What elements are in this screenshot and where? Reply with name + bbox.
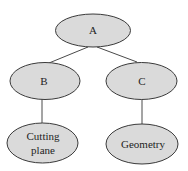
node-c-label: C: [138, 75, 145, 87]
node-cutting-plane-label-line1: Cutting: [26, 130, 60, 142]
edge-a-c: [97, 47, 137, 62]
node-c: C: [106, 63, 177, 100]
node-a-label: A: [89, 24, 97, 36]
node-cutting-plane-label-line2: plane: [31, 144, 55, 156]
node-cutting-plane: Cutting plane: [7, 123, 78, 163]
node-b: B: [10, 63, 80, 100]
tree-diagram: A B C Cutting plane Geometry: [0, 0, 188, 171]
node-b-label: B: [40, 75, 47, 87]
node-a: A: [56, 14, 131, 47]
node-geometry: Geometry: [106, 124, 178, 164]
node-geometry-label: Geometry: [121, 138, 165, 150]
edge-a-b: [49, 47, 88, 63]
